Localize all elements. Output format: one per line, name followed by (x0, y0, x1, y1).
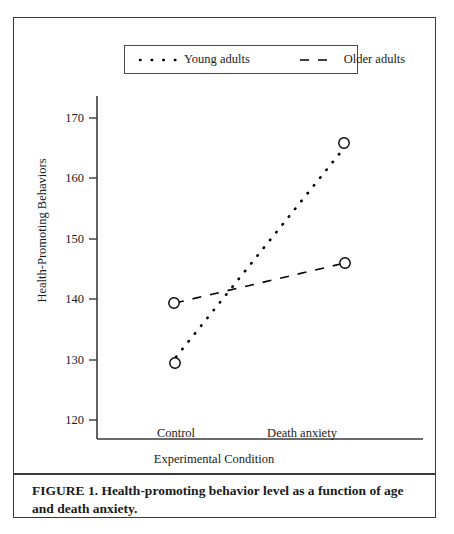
plot-region: Young adults Older adults (14, 18, 435, 473)
x-tick-label-death-anxiety: Death anxiety (267, 426, 337, 441)
data-point-young-death-anxiety (339, 138, 349, 148)
y-tick-label-120: 120 (42, 413, 84, 428)
figure-caption: FIGURE 1. Health-promoting behavior leve… (32, 482, 417, 518)
y-axis-ticks (89, 118, 97, 420)
data-point-older-control (169, 298, 179, 308)
figure-frame: Young adults Older adults (13, 17, 436, 518)
x-tick-label-control: Control (157, 426, 195, 441)
y-tick-label-170: 170 (42, 111, 84, 126)
series-line-young-adults (176, 148, 344, 357)
y-tick-label-130: 130 (42, 353, 84, 368)
x-axis-title: Experimental Condition (14, 452, 414, 467)
y-axis-title: Health-Promoting Behaviors (35, 141, 50, 321)
data-point-young-control (170, 358, 180, 368)
caption-divider (14, 473, 435, 475)
series-line-older-adults (175, 263, 345, 303)
data-point-older-death-anxiety (340, 258, 350, 268)
